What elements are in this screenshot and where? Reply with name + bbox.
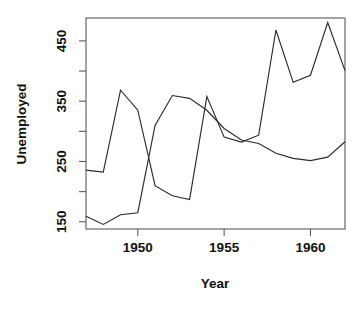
series-line-armed-forces [86,96,345,225]
series-line-unemployed [86,22,345,199]
x-axis-ticks [138,229,311,236]
longley-line-chart: 150250350450 195019551960 Year Unemploye… [0,0,361,310]
x-axis-tick-labels: 195019551960 [123,240,326,255]
chart-container: 150250350450 195019551960 Year Unemploye… [0,0,361,310]
plot-frame [86,18,345,229]
x-tick-label-1950: 1950 [123,240,153,255]
y-tick-label-350: 350 [55,90,70,113]
x-tick-label-1955: 1955 [209,240,240,255]
y-axis-tick-labels: 150250350450 [55,30,70,233]
y-axis-title: Unemployed [14,83,29,164]
y-axis-ticks [79,41,86,222]
y-tick-label-450: 450 [55,30,70,53]
y-tick-label-250: 250 [55,150,70,173]
y-tick-label-150: 150 [55,211,70,234]
x-axis-title: Year [201,276,230,291]
data-series-group [86,22,345,224]
x-tick-label-1960: 1960 [295,240,325,255]
